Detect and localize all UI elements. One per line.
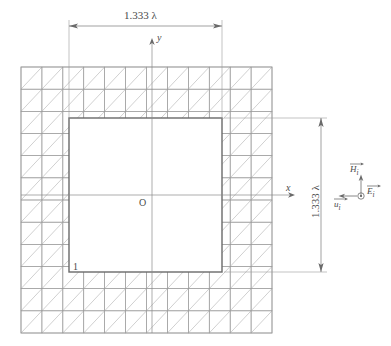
mesh-cell-diagonal xyxy=(230,267,251,289)
h-vector-subscript: i xyxy=(357,168,359,177)
mesh-cell-diagonal xyxy=(84,67,105,89)
mesh-cell-diagonal xyxy=(251,67,272,89)
mesh-cell-diagonal xyxy=(42,267,63,289)
mesh-cell-diagonal xyxy=(105,89,126,111)
mesh-cell-diagonal xyxy=(230,89,251,111)
mesh-cell-diagonal xyxy=(42,222,63,244)
h-vector-label: Hi xyxy=(350,165,359,176)
mesh-cell-diagonal xyxy=(42,311,63,333)
mesh-cell-diagonal xyxy=(147,311,168,333)
mesh-cell-diagonal xyxy=(251,89,272,111)
mesh-cell-diagonal xyxy=(21,244,42,266)
mesh-cell-diagonal xyxy=(147,289,168,311)
e-vector-label: Ei xyxy=(367,187,375,198)
mesh-cell-diagonal xyxy=(251,178,272,200)
mesh-cell-diagonal xyxy=(42,289,63,311)
mesh-cell-diagonal xyxy=(167,67,188,89)
top-dimension xyxy=(69,20,222,120)
mesh-cell-diagonal xyxy=(42,200,63,222)
mesh-cell-diagonal xyxy=(21,156,42,178)
mesh-diagram-svg xyxy=(0,0,391,346)
mesh-cell-diagonal xyxy=(251,267,272,289)
mesh-cell-diagonal xyxy=(84,289,105,311)
mesh-cell-diagonal xyxy=(21,178,42,200)
mesh-cell-diagonal xyxy=(147,89,168,111)
mesh-cell-diagonal xyxy=(126,311,147,333)
mesh-cell-diagonal xyxy=(21,200,42,222)
y-axis-label: y xyxy=(157,33,161,43)
u-vector-label: ui xyxy=(334,200,341,211)
mesh-cell-diagonal xyxy=(251,289,272,311)
mesh-cell-diagonal xyxy=(84,89,105,111)
mesh-cell-diagonal xyxy=(105,67,126,89)
mesh-cell-diagonal xyxy=(42,67,63,89)
mesh-cell-diagonal xyxy=(105,311,126,333)
mesh-cell-diagonal xyxy=(209,89,230,111)
mesh-cell-diagonal xyxy=(188,289,209,311)
mesh-cell-diagonal xyxy=(188,311,209,333)
x-axis-label: x xyxy=(286,183,290,193)
mesh-cell-diagonal xyxy=(126,89,147,111)
e-vector-dot xyxy=(360,195,362,197)
mesh-cell-diagonal xyxy=(251,156,272,178)
mesh-cell-diagonal xyxy=(251,311,272,333)
mesh-cell-diagonal xyxy=(188,67,209,89)
mesh-cell-diagonal xyxy=(42,89,63,111)
mesh-cell-diagonal xyxy=(230,200,251,222)
mesh-cell-diagonal xyxy=(167,289,188,311)
mesh-cell-diagonal xyxy=(230,156,251,178)
mesh-cell-diagonal xyxy=(251,200,272,222)
mesh-cell-diagonal xyxy=(230,244,251,266)
mesh-cell-diagonal xyxy=(209,311,230,333)
mesh-cell-diagonal xyxy=(209,67,230,89)
mesh-cell-diagonal xyxy=(84,311,105,333)
mesh-cell-diagonal xyxy=(42,111,63,133)
corner-node-label: 1 xyxy=(73,262,78,272)
mesh-cell-diagonal xyxy=(230,67,251,89)
mesh-cell-diagonal xyxy=(147,67,168,89)
mesh-cell-diagonal xyxy=(230,111,251,133)
mesh-cell-diagonal xyxy=(42,178,63,200)
mesh-cell-diagonal xyxy=(21,67,42,89)
mesh-cell-diagonal xyxy=(63,289,84,311)
mesh-cell-diagonal xyxy=(230,289,251,311)
mesh-cell-diagonal xyxy=(105,289,126,311)
mesh-cell-diagonal xyxy=(42,244,63,266)
mesh-cell-diagonal xyxy=(230,311,251,333)
e-vector-subscript: i xyxy=(373,190,375,199)
mesh-cell-diagonal xyxy=(42,156,63,178)
mesh-cell-diagonal xyxy=(230,134,251,156)
mesh-cell-diagonal xyxy=(167,311,188,333)
mesh-cell-diagonal xyxy=(230,222,251,244)
mesh-cell-diagonal xyxy=(126,289,147,311)
mesh-cell-diagonal xyxy=(63,67,84,89)
origin-label: O xyxy=(139,198,146,208)
top-dimension-label: 1.333 λ xyxy=(124,10,157,21)
mesh-cell-diagonal xyxy=(21,311,42,333)
mesh-cell-diagonal xyxy=(126,67,147,89)
mesh-cell-diagonal xyxy=(209,289,230,311)
mesh-cell-diagonal xyxy=(251,244,272,266)
mesh-cell-diagonal xyxy=(42,134,63,156)
mesh-cell-diagonal xyxy=(21,267,42,289)
mesh-cell-diagonal xyxy=(167,89,188,111)
mesh-cell-diagonal xyxy=(21,111,42,133)
u-vector-subscript: i xyxy=(339,203,341,212)
mesh-cell-diagonal xyxy=(21,134,42,156)
mesh-cell-diagonal xyxy=(230,178,251,200)
figure-canvas: 1.333 λ 1.333 λ y x O 1 Hi Ei ui xyxy=(0,0,391,346)
mesh-cell-diagonal xyxy=(21,222,42,244)
mesh-cell-diagonal xyxy=(251,111,272,133)
mesh-cell-diagonal xyxy=(21,89,42,111)
mesh-cell-diagonal xyxy=(188,89,209,111)
mesh-cell-diagonal xyxy=(251,222,272,244)
mesh-cell-diagonal xyxy=(63,89,84,111)
mesh-cell-diagonal xyxy=(63,311,84,333)
mesh-cell-diagonal xyxy=(21,289,42,311)
mesh-cell-diagonal xyxy=(251,134,272,156)
right-dimension-label: 1.333 λ xyxy=(310,185,321,218)
